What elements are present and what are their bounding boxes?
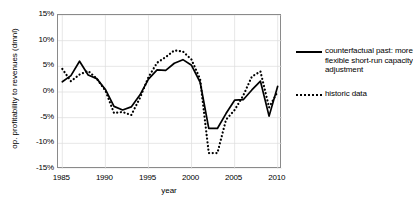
y-tick-label: 15% xyxy=(20,10,54,18)
y-axis-title: op. profitability to revenues (dmnl) xyxy=(10,9,19,169)
solid-line-icon xyxy=(296,48,322,57)
y-tick-label: -5% xyxy=(20,113,54,121)
data-series-layer xyxy=(62,50,277,153)
x-tick-label: 1985 xyxy=(41,174,81,182)
x-tick-label: 1990 xyxy=(84,174,124,182)
y-tick-label: -10% xyxy=(20,138,54,146)
x-tick-label: 1995 xyxy=(127,174,167,182)
chart-figure: 15%10%5%0%-5%-10%-15% op. profitability … xyxy=(0,0,413,205)
chart-legend: counterfactual past: more flexible short… xyxy=(296,46,413,114)
y-tick-label: 10% xyxy=(20,36,54,44)
x-axis-title: year xyxy=(57,186,281,195)
legend-entry: historic data xyxy=(296,89,413,100)
y-tick-label: -15% xyxy=(20,164,54,172)
y-tick-label: 0% xyxy=(20,87,54,95)
series-line-1 xyxy=(62,60,277,129)
plot-area xyxy=(57,14,281,168)
gridlines xyxy=(58,15,282,169)
y-tick-label: 5% xyxy=(20,61,54,69)
x-tick-label: 2005 xyxy=(214,174,254,182)
plot-canvas xyxy=(58,15,282,169)
x-axis-tick-labels: 198519901995200020052010 xyxy=(0,174,413,186)
legend-label: counterfactual past: more flexible short… xyxy=(325,46,413,75)
x-tick-label: 2010 xyxy=(257,174,297,182)
x-tick-label: 2000 xyxy=(171,174,211,182)
legend-label: historic data xyxy=(325,89,367,99)
dotted-line-icon xyxy=(296,91,322,100)
legend-entry: counterfactual past: more flexible short… xyxy=(296,46,413,75)
